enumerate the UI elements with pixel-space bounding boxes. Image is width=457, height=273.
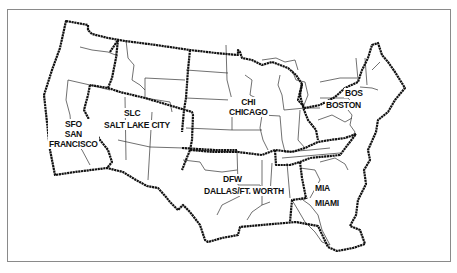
dfw-code: DFW	[223, 174, 242, 184]
region-label-dfw-name: DALLAS/FT. WORTH	[203, 186, 285, 196]
region-label-sfo: SFO SAN FRANCISCO	[48, 119, 99, 149]
sfo-name-line2: FRANCISCO	[49, 139, 98, 149]
slc-code: SLC	[124, 108, 140, 118]
chi-name: CHICAGO	[229, 107, 268, 117]
sfo-name-line1: SAN	[49, 129, 98, 139]
mia-name: MIAMI	[315, 198, 339, 208]
sfo-code: SFO	[49, 119, 98, 129]
region-label-mia-name: MIAMI	[314, 198, 340, 208]
bos-code: BOS	[345, 88, 363, 98]
slc-name: SALT LAKE CITY	[104, 120, 170, 130]
chi-code: CHI	[229, 97, 268, 107]
region-label-mia-code: MIA	[314, 183, 331, 193]
dfw-name: DALLAS/FT. WORTH	[204, 186, 284, 196]
region-label-chi: CHI CHICAGO	[228, 97, 269, 117]
region-label-dfw-code: DFW	[222, 174, 243, 184]
region-label-slc-name: SALT LAKE CITY	[103, 120, 171, 130]
region-label-bos-code: BOS	[344, 88, 364, 98]
region-label-bos-name: BOSTON	[325, 100, 362, 110]
mia-code: MIA	[315, 183, 330, 193]
region-label-slc-code: SLC	[123, 108, 141, 118]
bos-name: BOSTON	[326, 100, 361, 110]
